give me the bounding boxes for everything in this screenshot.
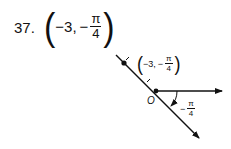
r-value: −3,	[143, 59, 156, 69]
right-paren: )	[175, 54, 181, 74]
angle-fraction: π 4	[187, 99, 195, 118]
theta-sign: −	[158, 59, 163, 69]
angle-sign: −	[180, 104, 185, 114]
point-label: ( −3, − π 4 )	[137, 54, 181, 73]
polar-point-dot	[121, 60, 126, 65]
polar-diagram	[0, 0, 231, 149]
angle-label: − π 4	[180, 99, 197, 118]
angle-arc	[171, 91, 177, 106]
angle-denominator: 4	[189, 109, 193, 118]
tick-mark	[126, 57, 129, 60]
theta-denominator: 4	[167, 64, 171, 73]
theta-fraction: π 4	[165, 54, 173, 73]
theta-numerator: π	[165, 54, 173, 64]
origin-dot	[154, 89, 159, 94]
tick-mark	[147, 79, 150, 82]
left-paren: (	[137, 54, 143, 74]
angle-numerator: π	[187, 99, 195, 109]
origin-label: O	[147, 95, 155, 106]
